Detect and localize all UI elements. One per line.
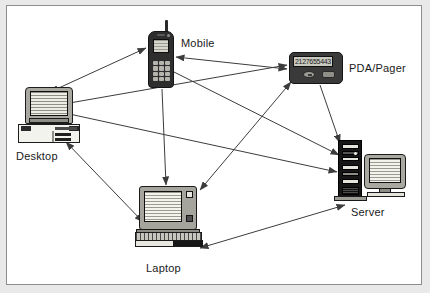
edge-desktop-server (60, 112, 337, 172)
edge-pda-server (320, 85, 340, 143)
label-pda-pager: PDA/Pager (349, 62, 406, 74)
mobile-earpiece (157, 34, 165, 36)
mobile-indicator-led (167, 34, 170, 37)
edge-desktop-mobile (50, 48, 146, 92)
server-tower-foot (334, 196, 367, 201)
pda-button[interactable] (322, 71, 335, 78)
node-desktop[interactable] (18, 87, 80, 143)
label-desktop: Desktop (16, 150, 58, 162)
edge-laptop-server (200, 205, 345, 248)
label-server: Server (351, 206, 385, 218)
diagram-canvas: Mobile 2127655443 PDA/Pager Desktop Lapt… (0, 0, 430, 293)
node-pda-pager[interactable]: 2127655443 (289, 52, 343, 84)
laptop-screen (144, 191, 182, 222)
pda-screen: 2127655443 (293, 56, 333, 67)
pda-dial-control[interactable] (303, 71, 315, 78)
label-mobile: Mobile (181, 37, 215, 49)
label-laptop: Laptop (146, 262, 181, 274)
mobile-keypad (153, 61, 170, 81)
mobile-screen (153, 39, 169, 53)
server-monitor-stand (367, 192, 405, 197)
server-monitor-screen (369, 158, 401, 183)
pda-screen-text: 2127655443 (295, 56, 331, 67)
desktop-monitor-stand (29, 118, 69, 123)
node-mobile[interactable] (148, 20, 174, 88)
laptop-side-button-bottom[interactable] (186, 215, 193, 222)
desktop-monitor-screen (30, 91, 68, 116)
node-laptop[interactable] (135, 186, 203, 248)
server-vent (342, 187, 359, 195)
node-server[interactable] (334, 140, 406, 205)
server-power-led (354, 152, 357, 155)
edge-pda-laptop (200, 82, 291, 190)
edge-mobile-pda (176, 57, 287, 69)
laptop-front-edge (135, 240, 203, 247)
edge-mobile-laptop (162, 89, 166, 185)
server-tower (338, 140, 362, 197)
edge-desktop-laptop (66, 142, 143, 222)
desktop-base-unit (18, 124, 80, 143)
laptop-side-button-top[interactable] (186, 191, 193, 198)
